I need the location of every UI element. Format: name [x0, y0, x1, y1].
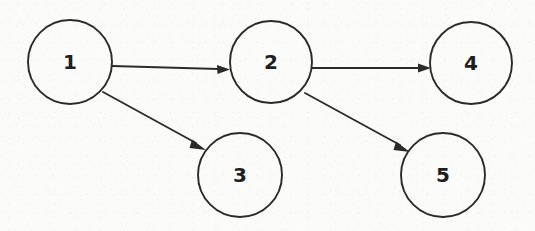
node-1-label: 1: [63, 50, 77, 74]
edge-2-to-4[interactable]: [312, 64, 431, 73]
edge-group: [103, 64, 431, 153]
node-group: 1 2 3 4 5: [28, 20, 512, 217]
edge-1-to-2[interactable]: [112, 65, 230, 74]
node-2-label: 2: [264, 50, 278, 74]
edge-2-to-5[interactable]: [305, 93, 410, 152]
node-4[interactable]: 4: [430, 22, 512, 104]
edge-2-to-5-arrowhead: [394, 142, 411, 153]
node-5[interactable]: 5: [401, 133, 485, 217]
node-3-label: 3: [233, 163, 247, 187]
edge-1-to-3[interactable]: [103, 92, 206, 150]
edge-2-to-4-arrowhead: [418, 64, 431, 73]
diagram-canvas: 1 2 3 4 5: [0, 0, 535, 231]
edge-1-to-2-arrowhead: [217, 65, 230, 74]
node-2[interactable]: 2: [230, 21, 312, 103]
edge-1-to-3-arrowhead: [190, 140, 207, 151]
edge-2-to-5-line: [305, 93, 400, 145]
node-4-label: 4: [464, 51, 478, 75]
node-5-label: 5: [436, 163, 450, 187]
directed-graph: 1 2 3 4 5: [0, 0, 535, 231]
node-3[interactable]: 3: [198, 133, 282, 217]
edge-1-to-3-line: [103, 92, 196, 143]
edge-1-to-2-line: [112, 66, 219, 69]
node-1[interactable]: 1: [28, 20, 112, 104]
